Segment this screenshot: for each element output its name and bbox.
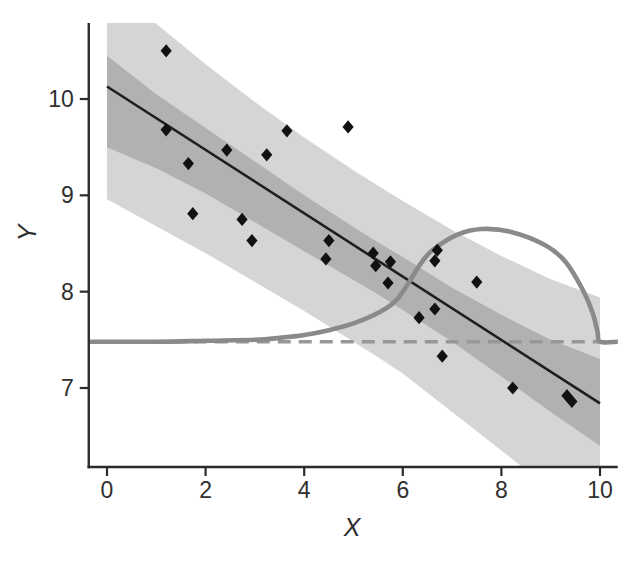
y-axis-title: Y [13,225,42,242]
scatter-regression-plot: 024681078910 [0,0,638,562]
x-tick-label: 4 [298,477,311,503]
y-tick-label: 9 [61,182,74,208]
x-tick-label: 8 [495,477,508,503]
y-tick-label: 10 [48,86,74,112]
y-tick-label: 8 [61,279,74,305]
x-tick-label: 2 [199,477,212,503]
data-point-diamond [342,120,353,133]
x-tick-label: 10 [587,477,613,503]
y-tick-label: 7 [61,375,74,401]
regression-line [107,86,600,403]
plot-area [89,0,618,528]
x-tick-label: 6 [396,477,409,503]
figure: 024681078910 X Y [0,0,638,562]
confidence-band [107,56,600,446]
x-tick-label: 0 [101,477,114,503]
x-axis-title: X [344,513,361,542]
